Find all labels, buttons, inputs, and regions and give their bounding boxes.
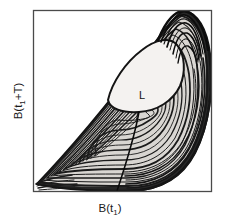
svg-text:B(t1+T): B(t1+T) (12, 82, 27, 119)
attractor-plot: L B(t1) B(t1+T) (0, 0, 227, 223)
svg-text:B(t1): B(t1) (99, 202, 122, 217)
x-axis-label: B(t1) (99, 202, 122, 217)
x-axis-label-main: B(t (99, 202, 115, 214)
y-axis-label: B(t1+T) (12, 82, 27, 119)
y-axis-label-tail: +T) (12, 82, 24, 100)
figure-container: L B(t1) B(t1+T) (0, 0, 227, 223)
line-L-label: L (139, 89, 145, 101)
y-axis-label-main: B(t (12, 104, 24, 120)
x-axis-label-close: ) (118, 202, 122, 214)
